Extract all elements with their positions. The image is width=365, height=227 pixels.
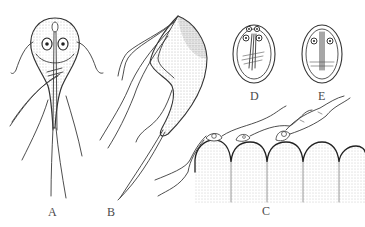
panel-b-trophozoite-side <box>100 16 207 200</box>
giardia-illustration: A B C D E <box>0 0 365 227</box>
panel-label-d: D <box>250 90 259 102</box>
panel-label-a: A <box>48 206 57 218</box>
panel-d-cyst <box>233 25 275 83</box>
panel-a-trophozoite <box>10 18 103 198</box>
panel-e-cyst <box>302 25 342 83</box>
panel-label-b: B <box>107 206 115 218</box>
illustration-svg <box>0 0 365 227</box>
panel-label-c: C <box>262 205 270 217</box>
panel-label-e: E <box>318 90 325 102</box>
